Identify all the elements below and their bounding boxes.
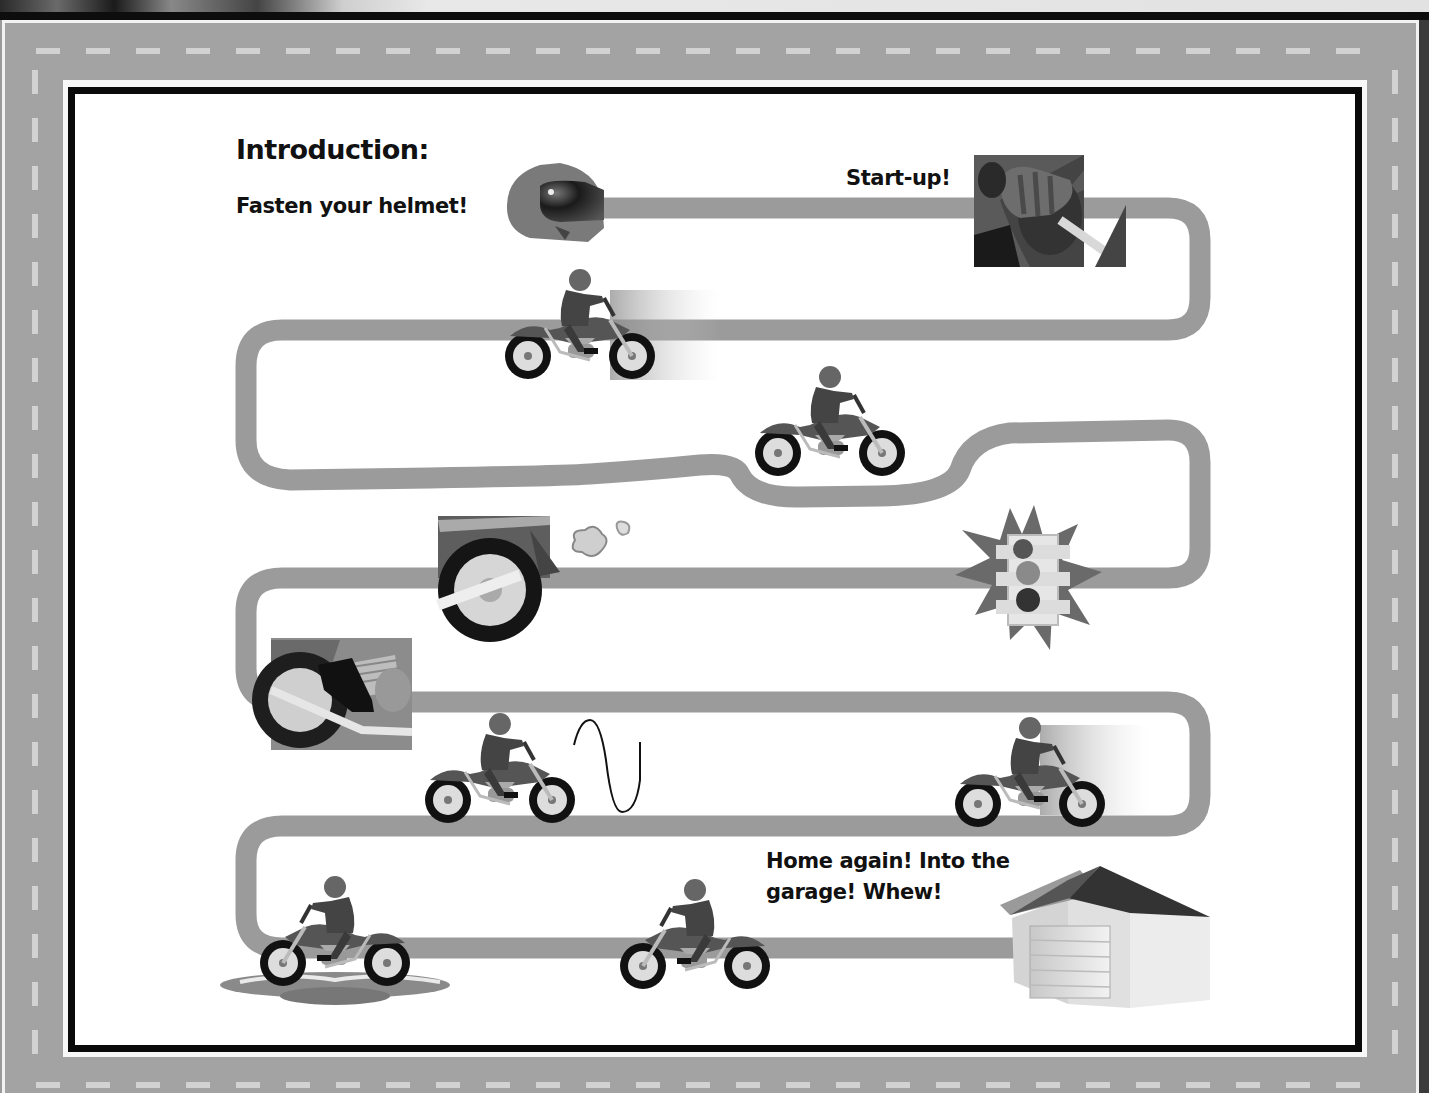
road-illustration (0, 0, 1429, 1093)
motorcycle-speeding-icon (955, 717, 1150, 827)
step-label-garage: Home again! Into the garage! Whew! (766, 846, 1026, 908)
motorcycle-icon (620, 879, 770, 989)
garage-icon (1000, 866, 1210, 1008)
motorcycle-wave-icon (425, 713, 640, 823)
diagram-stage: Introduction: Fasten your helmet! Start-… (0, 0, 1429, 1093)
motorcycle-curve-icon (755, 366, 905, 476)
step-label-helmet: Fasten your helmet! (236, 194, 468, 218)
diagram-title: Introduction: (236, 134, 429, 165)
foot-on-peg-icon (252, 638, 412, 750)
helmet-icon (507, 163, 604, 242)
traffic-light-burst-icon (955, 505, 1102, 650)
step-label-start-up: Start-up! (846, 166, 950, 190)
